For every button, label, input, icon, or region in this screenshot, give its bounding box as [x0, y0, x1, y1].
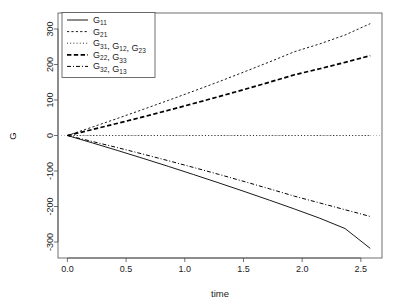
x-tick-label: 1.5: [237, 264, 250, 274]
x-axis-title: time: [211, 288, 229, 299]
x-tick-label: 0.0: [61, 264, 74, 274]
x-tick-label: 2.0: [296, 264, 309, 274]
x-tick-label: 2.5: [355, 264, 368, 274]
y-tick-label: -200: [45, 198, 55, 216]
y-tick-label: 300: [45, 21, 55, 36]
x-tick-label: 1.0: [179, 264, 192, 274]
chart-figure: 3002001000-100-200-300 0.00.51.01.52.02.…: [0, 0, 401, 305]
chart-background: [0, 0, 401, 305]
x-tick-label: 0.5: [120, 264, 133, 274]
chart-legend: G11G21G31, G12, G23G22, G33G32, G13: [62, 13, 155, 78]
y-tick-label: 100: [45, 92, 55, 107]
line-chart: 3002001000-100-200-300 0.00.51.01.52.02.…: [0, 0, 401, 305]
y-tick-label: -100: [45, 162, 55, 180]
y-tick-label: 200: [45, 57, 55, 72]
y-tick-label: 0: [45, 133, 55, 138]
y-tick-label: -300: [45, 233, 55, 251]
y-axis-title: G: [7, 132, 18, 139]
